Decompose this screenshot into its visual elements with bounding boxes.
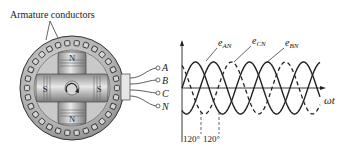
terminal-a[interactable] [156,66,160,70]
terminals: A B C N [156,62,170,112]
diagram-canvas: Armature conductors N N S S [0,0,347,153]
callout-pointer [46,21,50,40]
svg-text:eBN: eBN [285,37,299,50]
terminal-label-b: B [162,75,168,86]
phase-label-2: 120° [203,134,221,144]
pole-label-bottom: N [69,114,75,124]
callout-pointer [50,21,58,38]
terminal-label-n: N [161,101,170,112]
curve-label-e-an: eAN [206,37,232,61]
terminal-label-c: C [162,88,169,99]
x-axis-arrow-icon [320,86,326,90]
pole-label-top: N [69,53,75,63]
curve-label-e-bn: eBN [266,37,299,63]
terminal-n[interactable] [156,104,160,108]
phase-label-1: 120° [183,134,201,144]
terminal-b[interactable] [156,78,160,82]
svg-text:eCN: eCN [252,35,266,48]
svg-text:eAN: eAN [218,37,232,50]
pole-label-right: S [97,84,102,94]
terminal-label-a: A [161,62,169,73]
waveform-plot: ωt eAN eCN eBN 120° 120° [180,35,336,144]
armature-conductors-label: Armature conductors [10,9,95,20]
x-axis-label: ωt [324,94,336,106]
curve-label-e-cn: eCN [234,35,266,62]
y-axis-arrow-icon [180,40,184,46]
generator-illustration: Armature conductors N N S S [10,9,170,140]
terminal-box [121,74,130,100]
terminal-leads [130,68,156,106]
pole-label-left: S [43,84,48,94]
terminal-c[interactable] [156,91,160,95]
